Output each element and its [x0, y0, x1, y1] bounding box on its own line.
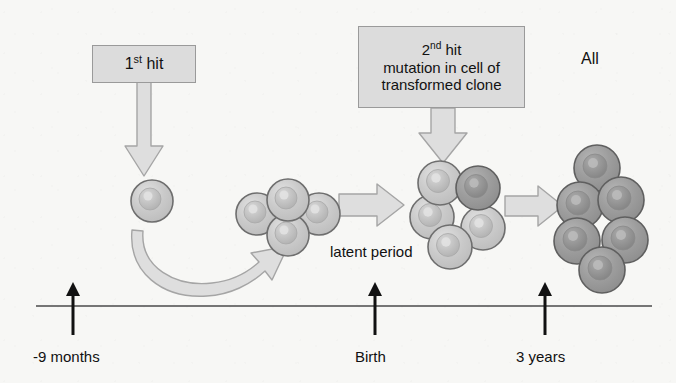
cell [418, 161, 462, 205]
cell-mutant [579, 247, 625, 293]
first-hit-box: 1st hit [92, 45, 196, 83]
cell-group-leukaemic-clone-cluster [554, 145, 648, 293]
cell-group-second-hit-cluster [410, 161, 505, 269]
latent-period-right-arrow [339, 184, 404, 226]
first-hit-word: hit [142, 56, 163, 73]
cell-group-transformed-clone-cluster [236, 179, 340, 256]
cell [428, 225, 472, 269]
timeline-label-birth: Birth [355, 348, 386, 365]
clone-expansion-curved-arrow [132, 230, 288, 296]
second-hit-number: 2 [422, 41, 430, 58]
proliferation-right-arrow [505, 186, 563, 226]
second-hit-box: 2nd hit mutation in cell of transformed … [358, 26, 525, 108]
second-hit-box-line-1: 2nd hit [422, 40, 462, 59]
all-label: All [581, 50, 599, 68]
cell-group-single-founder-cell [131, 180, 173, 222]
second-hit-box-line-3: transformed clone [381, 76, 501, 94]
first-hit-down-arrow [125, 82, 163, 176]
cell-mutant [456, 166, 500, 210]
cell [131, 180, 173, 222]
cell-mutant [598, 177, 644, 223]
second-hit-ordinal-suffix: nd [430, 40, 441, 51]
second-hit-word: hit [441, 41, 461, 58]
timeline-tick-minus-9-months [66, 282, 80, 335]
first-hit-box-line-1: 1st hit [125, 53, 164, 74]
timeline-label-3-years: 3 years [516, 348, 565, 365]
cell [267, 179, 309, 221]
second-hit-down-arrow [419, 108, 467, 163]
latent-period-label: latent period [330, 243, 413, 260]
timeline-axis [36, 282, 652, 335]
timeline-tick-birth [368, 282, 382, 335]
figure-canvas: 1st hit 2nd hit mutation in cell of tran… [0, 0, 676, 383]
second-hit-box-line-2: mutation in cell of [383, 59, 500, 77]
timeline-tick-3-years [538, 282, 552, 335]
timeline-label-minus-9-months: -9 months [33, 348, 100, 365]
first-hit-ordinal-suffix: st [134, 53, 142, 65]
first-hit-number: 1 [125, 56, 134, 73]
